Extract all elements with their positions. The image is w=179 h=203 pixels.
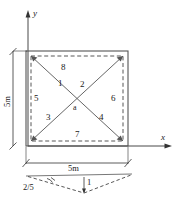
detail-left-dashed-edge <box>28 177 84 194</box>
element-label-7: 7 <box>75 130 80 139</box>
detail-slope-label: 2/5 <box>23 183 34 192</box>
element-label-4: 4 <box>99 113 104 122</box>
element-label-6: 6 <box>111 94 116 103</box>
detail-slope-tick <box>51 178 55 181</box>
element-label-3: 3 <box>46 113 51 122</box>
detail-top-reference-line <box>26 174 132 176</box>
y-axis-arrowhead <box>26 10 31 18</box>
detail-depth-label: 1 <box>87 178 91 187</box>
element-label-8: 8 <box>61 63 66 72</box>
center-node-label: a <box>73 104 77 112</box>
element-label-1: 1 <box>58 79 63 88</box>
element-label-2: 2 <box>80 80 85 89</box>
x-axis-arrowhead <box>165 144 173 149</box>
x-axis-label: x <box>161 133 165 142</box>
horizontal-dimension-label: 5m <box>68 164 79 173</box>
vertical-dimension-label: 5m <box>3 96 12 107</box>
element-label-5: 5 <box>34 94 39 103</box>
y-axis-label: y <box>33 9 37 18</box>
engineering-figure <box>0 0 179 203</box>
